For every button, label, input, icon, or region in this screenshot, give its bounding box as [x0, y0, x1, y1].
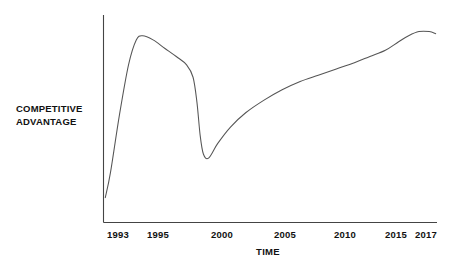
x-axis-tick-label-1995: 1995: [138, 229, 178, 240]
line-series-competitive-advantage: [105, 31, 435, 197]
x-axis-tick-label-2010: 2010: [325, 229, 365, 240]
x-axis-tick-label-2005: 2005: [265, 229, 305, 240]
axes-group: [104, 15, 438, 223]
x-axis-title: TIME: [238, 246, 298, 257]
y-axis-title-line-1: COMPETITIVE: [16, 102, 102, 115]
chart-container: COMPETITIVE ADVANTAGE TIME 1993 1995 200…: [0, 0, 455, 276]
x-axis-tick-label-2000: 2000: [202, 229, 242, 240]
x-axis-tick-label-1993: 1993: [98, 229, 138, 240]
y-axis-title-line-2: ADVANTAGE: [16, 115, 102, 128]
data-series-group: [105, 31, 435, 197]
x-axis-tick-label-2017: 2017: [406, 229, 446, 240]
y-axis-title: COMPETITIVE ADVANTAGE: [16, 102, 102, 128]
